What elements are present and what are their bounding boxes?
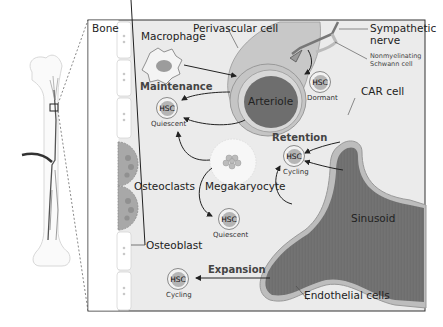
- hsc-state-dormant: Dormant: [307, 95, 338, 102]
- label-sympathetic-line1: Sympathetic: [370, 23, 436, 34]
- hsc-state-cycling: Cycling: [283, 169, 309, 176]
- hsc-cell-expansion: HSC: [167, 268, 189, 290]
- hsc-state-quiescent: Quiescent: [151, 121, 186, 128]
- label-maintenance: Maintenance: [140, 82, 213, 92]
- label-perivascular-cell: Perivascular cell: [193, 23, 278, 34]
- label-bone: Bone: [92, 23, 119, 34]
- label-schwann-line2: Schwann cell: [370, 61, 413, 68]
- hsc-state-quiescent-lower: Quiescent: [213, 232, 248, 239]
- label-expansion: Expansion: [208, 265, 266, 275]
- hsc-state-cycling-lower: Cycling: [166, 292, 192, 299]
- label-retention: Retention: [272, 133, 327, 143]
- label-sympathetic-line2: nerve: [370, 35, 400, 46]
- hsc-cell-dormant: HSC: [309, 71, 331, 93]
- label-osteoblast: Osteoblast: [146, 240, 202, 251]
- diagram-canvas: [0, 0, 443, 327]
- label-endothelial-cells: Endothelial cells: [304, 290, 390, 301]
- bone-region: [89, 21, 119, 311]
- label-schwann-line1: Nonmyelinating: [370, 53, 421, 60]
- label-osteoclasts: Osteoclasts: [134, 181, 195, 192]
- label-megakaryocyte: Megakaryocyte: [205, 181, 285, 192]
- hsc-cell-maintenance: HSC: [156, 97, 178, 119]
- hsc-cell-retention: HSC: [283, 145, 305, 167]
- label-car-cell: CAR cell: [361, 86, 404, 97]
- label-sinusoid: Sinusoid: [351, 213, 395, 224]
- label-arteriole: Arteriole: [248, 96, 293, 107]
- megakaryocyte-shape: [210, 139, 256, 185]
- femur-bone-icon: [22, 20, 88, 311]
- hsc-cell-quiescent-lower: HSC: [218, 208, 240, 230]
